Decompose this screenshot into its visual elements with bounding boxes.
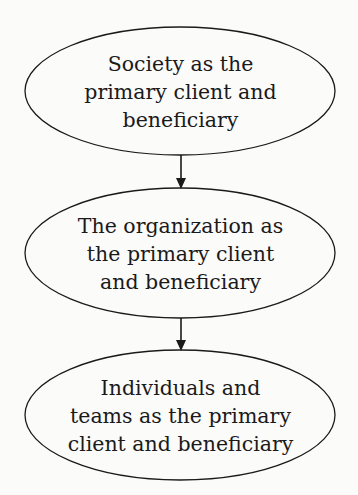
- node-organization-line-1: The organization as: [25, 212, 336, 240]
- node-organization-label: The organization as the primary client a…: [25, 212, 336, 296]
- node-society-label: Society as the primary client and benefi…: [25, 50, 336, 134]
- node-individuals-line-3: client and beneficiary: [25, 430, 336, 458]
- arrow-society-to-organization: [176, 155, 186, 189]
- node-individuals-label: Individuals and teams as the primary cli…: [25, 374, 336, 458]
- arrow-organization-to-individuals: [176, 318, 186, 351]
- node-society-line-2: primary client and: [25, 78, 336, 106]
- node-society-line-1: Society as the: [25, 50, 336, 78]
- node-organization-line-3: and beneficiary: [25, 268, 336, 296]
- node-individuals-line-1: Individuals and: [25, 374, 336, 402]
- node-organization-line-2: the primary client: [25, 240, 336, 268]
- node-individuals-line-2: teams as the primary: [25, 402, 336, 430]
- node-society-line-3: beneficiary: [25, 106, 336, 134]
